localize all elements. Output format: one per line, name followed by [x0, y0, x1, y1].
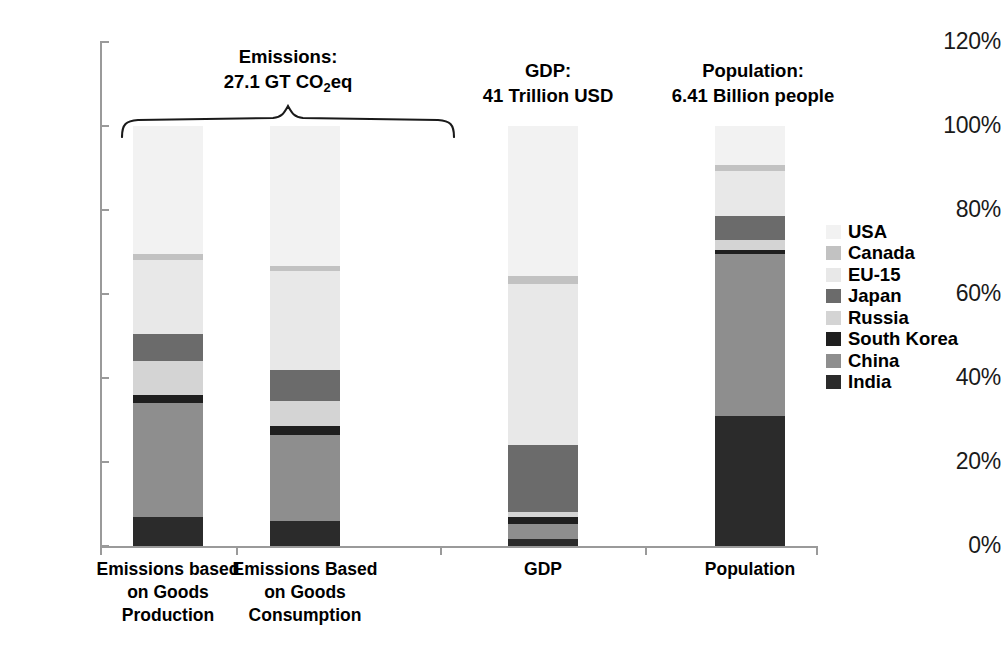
y-axis-tick-label: 120%: [913, 30, 1001, 53]
bar-segment-eu-15[interactable]: [508, 284, 578, 445]
legend-swatch: [826, 246, 841, 260]
annotation-gdp-line2: 41 Trillion USD: [458, 84, 638, 109]
annotation-population-line1: Population:: [638, 59, 868, 84]
bar-segment-south-korea[interactable]: [133, 395, 203, 403]
bar-segment-japan[interactable]: [508, 445, 578, 511]
bar-segment-japan[interactable]: [133, 334, 203, 361]
legend-label: EU-15: [848, 266, 900, 285]
x-axis-line: [100, 546, 816, 548]
legend-item-south-korea[interactable]: South Korea: [826, 329, 958, 351]
annotation-population-line2: 6.41 Billion people: [638, 84, 868, 109]
bar-segment-russia[interactable]: [508, 512, 578, 517]
bar-segment-china[interactable]: [715, 254, 785, 416]
legend-item-china[interactable]: China: [826, 350, 958, 372]
legend-swatch: [826, 354, 841, 368]
legend: USACanadaEU-15JapanRussiaSouth KoreaChin…: [826, 221, 958, 393]
y-axis-tick-label: 20%: [913, 450, 1001, 473]
x-axis-tick: [645, 546, 647, 555]
annotation-gdp: GDP: 41 Trillion USD: [458, 59, 638, 109]
bar-segment-canada[interactable]: [715, 165, 785, 171]
emissions-brace: [118, 104, 458, 138]
bar-segment-india[interactable]: [715, 416, 785, 546]
legend-label: China: [848, 352, 899, 371]
legend-item-india[interactable]: India: [826, 372, 958, 394]
bar-population[interactable]: [715, 42, 785, 546]
x-axis-tick: [100, 546, 102, 555]
bar-segment-india[interactable]: [270, 521, 340, 546]
legend-label: Japan: [848, 287, 901, 306]
category-label-line: Emissions Based: [205, 558, 405, 581]
bar-segment-china[interactable]: [133, 403, 203, 516]
y-axis-tick: [100, 209, 109, 211]
bar-segment-india[interactable]: [508, 539, 578, 546]
bar-segment-japan[interactable]: [270, 370, 340, 402]
bar-segment-eu-15[interactable]: [715, 171, 785, 216]
annotation-emissions-line2: 27.1 GT CO2eq: [168, 70, 408, 95]
bar-segment-south-korea[interactable]: [508, 517, 578, 525]
legend-label: South Korea: [848, 330, 958, 349]
bar-segment-usa[interactable]: [270, 126, 340, 266]
legend-item-canada[interactable]: Canada: [826, 243, 958, 265]
bar-segment-usa[interactable]: [133, 126, 203, 254]
legend-swatch: [826, 289, 841, 303]
bar-segment-japan[interactable]: [715, 216, 785, 240]
x-axis-tick: [236, 546, 238, 555]
bar-segment-canada[interactable]: [133, 254, 203, 260]
category-label-line: GDP: [443, 558, 643, 581]
annotation-emissions-line1: Emissions:: [168, 45, 408, 70]
annotation-emissions: Emissions: 27.1 GT CO2eq: [168, 45, 408, 95]
x-axis-tick: [440, 546, 442, 555]
bar-segment-india[interactable]: [133, 517, 203, 546]
stacked-bar-chart: 0%20%40%60%80%100%120% Emissions basedon…: [0, 0, 1001, 667]
bar-segment-south-korea[interactable]: [715, 250, 785, 254]
y-axis-tick: [100, 125, 109, 127]
bar-segment-russia[interactable]: [133, 361, 203, 395]
legend-item-russia[interactable]: Russia: [826, 307, 958, 329]
y-axis-tick: [100, 377, 109, 379]
x-axis-tick: [816, 546, 818, 555]
y-axis-tick-label: 100%: [913, 114, 1001, 137]
bar-segment-china[interactable]: [270, 435, 340, 521]
bar-gdp[interactable]: [508, 42, 578, 546]
y-axis-tick: [100, 461, 109, 463]
bar-segment-russia[interactable]: [715, 240, 785, 250]
legend-swatch: [826, 375, 841, 389]
legend-label: USA: [848, 223, 887, 242]
legend-label: Canada: [848, 244, 915, 263]
legend-item-eu-15[interactable]: EU-15: [826, 264, 958, 286]
bar-segment-canada[interactable]: [508, 276, 578, 284]
y-axis-tick: [100, 293, 109, 295]
legend-swatch: [826, 225, 841, 239]
legend-item-japan[interactable]: Japan: [826, 286, 958, 308]
y-axis-tick: [100, 41, 109, 43]
legend-swatch: [826, 332, 841, 346]
category-label-line: Population: [650, 558, 850, 581]
category-label: GDP: [443, 558, 643, 581]
legend-label: India: [848, 373, 891, 392]
y-axis-tick-label: 80%: [913, 198, 1001, 221]
bar-segment-usa[interactable]: [715, 126, 785, 165]
bar-segment-eu-15[interactable]: [270, 271, 340, 370]
annotation-population: Population: 6.41 Billion people: [638, 59, 868, 109]
legend-swatch: [826, 311, 841, 325]
legend-swatch: [826, 268, 841, 282]
annotation-gdp-line1: GDP:: [458, 59, 638, 84]
category-label: Population: [650, 558, 850, 581]
bar-segment-eu-15[interactable]: [133, 260, 203, 334]
category-label-line: on Goods: [205, 581, 405, 604]
bar-segment-china[interactable]: [508, 524, 578, 539]
legend-item-usa[interactable]: USA: [826, 221, 958, 243]
bar-segment-russia[interactable]: [270, 401, 340, 426]
y-axis-tick-label: 0%: [913, 534, 1001, 557]
bar-segment-canada[interactable]: [270, 266, 340, 271]
category-label: Emissions Basedon GoodsConsumption: [205, 558, 405, 627]
bar-segment-south-korea[interactable]: [270, 426, 340, 434]
category-label-line: Consumption: [205, 604, 405, 627]
bar-segment-usa[interactable]: [508, 126, 578, 276]
legend-label: Russia: [848, 309, 909, 328]
